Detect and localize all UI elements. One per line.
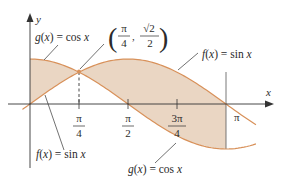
y-axis-arrow-icon <box>27 13 34 22</box>
f-label-top-leader <box>178 53 198 70</box>
intersection-label: ( π 4 , √2 2 ) <box>108 22 168 53</box>
g-label-top-leader <box>44 45 58 60</box>
svg-text:2: 2 <box>147 37 153 49</box>
svg-text:): ) <box>159 22 168 53</box>
x-axis-arrow-icon <box>265 101 274 108</box>
f-label-bottom: f(x) = sin x <box>36 148 87 161</box>
svg-text:4: 4 <box>121 37 127 49</box>
tick-label-pi2: π 2 <box>122 112 134 139</box>
g-label-bottom: g(x) = cos x <box>128 163 183 176</box>
svg-text:π: π <box>76 112 82 124</box>
svg-text:√2: √2 <box>143 22 155 34</box>
svg-text:2: 2 <box>125 127 131 139</box>
svg-text:(: ( <box>108 22 117 53</box>
svg-text:π: π <box>125 112 131 124</box>
x-axis-label: x <box>265 86 271 98</box>
svg-text:4: 4 <box>76 127 82 139</box>
y-axis-label: y <box>35 13 41 25</box>
svg-text:π: π <box>121 22 127 34</box>
g-label-bottom-leader <box>155 143 176 163</box>
svg-text:3π: 3π <box>171 112 183 124</box>
g-label-top: g(x) = cos x <box>35 31 90 44</box>
tick-label-pi4: π 4 <box>73 112 85 139</box>
sin-cos-area-figure: y x π 4 π 2 3π 4 π ( π 4 , √2 2 ) g(x) =… <box>0 0 285 183</box>
svg-text:4: 4 <box>174 127 180 139</box>
tick-label-pi: π <box>234 111 240 123</box>
intersection-point <box>77 70 81 74</box>
f-label-top: f(x) = sin x <box>202 48 253 61</box>
svg-text:,: , <box>132 30 135 42</box>
f-label-bottom-leader <box>45 95 64 150</box>
